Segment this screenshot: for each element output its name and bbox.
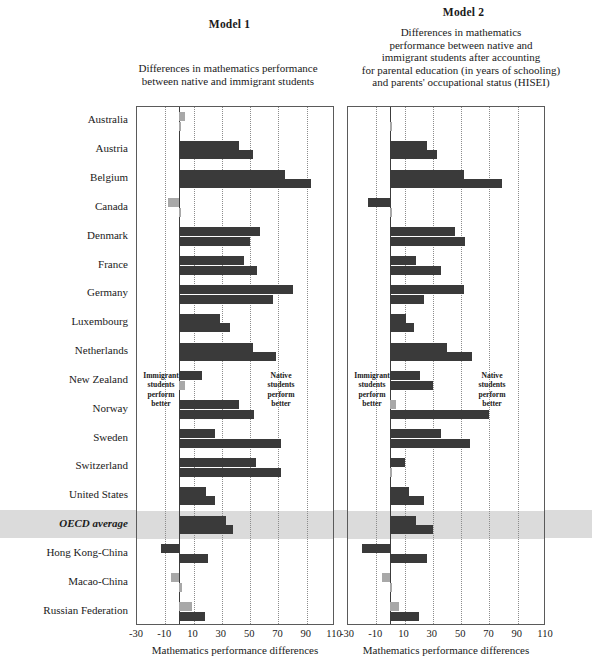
x-tick-model-2-50: 50 <box>445 628 475 639</box>
annotation-immigrant-line-3: better <box>350 399 394 409</box>
bar-netherlands-series-0 <box>390 343 447 352</box>
annotation-native-line-3: better <box>470 399 514 409</box>
x-tick-model-2-110: 110 <box>530 628 560 639</box>
bar-macao-china-series-1 <box>179 583 182 592</box>
bar-netherlands-series-1 <box>179 352 275 361</box>
bar-belgium-series-1 <box>390 179 502 188</box>
bar-macao-china-series-0 <box>171 573 179 582</box>
annotation-native-line-0: Native <box>259 371 303 381</box>
bar-norway-series-0 <box>179 400 238 409</box>
category-label-denmark: Denmark <box>0 230 128 241</box>
x-tick-model-1-90: 90 <box>291 628 321 639</box>
bar-netherlands-series-1 <box>390 352 472 361</box>
bar-sweden-series-0 <box>179 429 214 438</box>
bar-canada-series-0 <box>368 198 391 207</box>
bar-united-states-series-0 <box>179 487 206 496</box>
bar-germany-series-1 <box>179 295 272 304</box>
bar-russian-federation-series-0 <box>179 602 192 611</box>
bar-new-zealand-series-1 <box>390 381 432 390</box>
category-label-austria: Austria <box>0 143 128 154</box>
annotation-immigrant-line-2: perform <box>350 390 394 400</box>
category-label-norway: Norway <box>0 403 128 414</box>
bar-france-series-0 <box>390 256 415 265</box>
bar-oecd-average-series-0 <box>179 516 226 525</box>
bar-luxembourg-series-0 <box>179 314 220 323</box>
bar-united-states-series-1 <box>179 496 214 505</box>
bar-oecd-average-series-1 <box>390 525 432 534</box>
x-tick-model-1-10: 10 <box>178 628 208 639</box>
bar-germany-series-0 <box>179 285 292 294</box>
bar-norway-series-1 <box>390 410 489 419</box>
x-tick-model-1--10: -10 <box>149 628 179 639</box>
x-tick-model-1-70: 70 <box>262 628 292 639</box>
bar-austria-series-0 <box>390 141 427 150</box>
category-label-switzerland: Switzerland <box>0 460 128 471</box>
x-tick-model-2-90: 90 <box>502 628 532 639</box>
bar-belgium-series-1 <box>179 179 311 188</box>
bar-germany-series-1 <box>390 295 424 304</box>
bar-france-series-1 <box>390 266 441 275</box>
bar-denmark-series-0 <box>390 227 455 236</box>
bar-macao-china-series-0 <box>382 573 390 582</box>
chart-plot-model-1: ImmigrantstudentsperformbetterNativestud… <box>136 106 334 625</box>
annotation-immigrant-line-0: Immigrant <box>139 371 183 381</box>
bar-germany-series-0 <box>390 285 464 294</box>
bar-hong-kong-china-series-1 <box>179 554 207 563</box>
bar-netherlands-series-0 <box>179 343 253 352</box>
bar-denmark-series-1 <box>390 237 465 246</box>
pisa-immigrant-performance-figure: Model 1 Differences in mathematics perfo… <box>0 0 592 669</box>
panel-subtitle-model-2-line-3: for parental education (in years of scho… <box>332 64 590 77</box>
bar-oecd-average-series-0 <box>390 516 415 525</box>
category-label-united-states: United States <box>0 489 128 500</box>
category-label-france: France <box>0 259 128 270</box>
x-axis-title-model-2: Mathematics performance differences <box>347 644 545 656</box>
category-label-australia: Australia <box>0 114 128 125</box>
x-tick-model-2--30: -30 <box>332 628 362 639</box>
panel-subtitle-model-1-line-0: Differences in mathematics performance <box>112 62 344 75</box>
bar-canada-series-0 <box>168 198 179 207</box>
bar-macao-china-series-1 <box>390 583 391 592</box>
bar-switzerland-series-1 <box>390 468 391 477</box>
annotation-native-line-2: perform <box>259 390 303 400</box>
panel-subtitle-model-2: Differences in mathematicsperformance be… <box>332 26 590 89</box>
panel-subtitle-model-2-line-4: and parents' occupational status (HISEI) <box>332 76 590 89</box>
x-tick-model-2-30: 30 <box>417 628 447 639</box>
bar-new-zealand-series-0 <box>390 371 420 380</box>
annotation-immigrant-perform-better: Immigrantstudentsperformbetter <box>139 371 183 409</box>
annotation-immigrant-line-2: perform <box>139 390 183 400</box>
gridline-90 <box>518 107 520 624</box>
bar-denmark-series-1 <box>179 237 250 246</box>
category-label-canada: Canada <box>0 201 128 212</box>
category-label-netherlands: Netherlands <box>0 345 128 356</box>
bar-russian-federation-series-1 <box>179 612 204 621</box>
bar-sweden-series-1 <box>179 439 281 448</box>
category-label-luxembourg: Luxembourg <box>0 316 128 327</box>
chart-plot-model-2: ImmigrantstudentsperformbetterNativestud… <box>347 106 545 625</box>
bar-switzerland-series-0 <box>179 458 255 467</box>
x-tick-model-1--30: -30 <box>121 628 151 639</box>
bar-switzerland-series-1 <box>179 468 281 477</box>
bar-hong-kong-china-series-0 <box>362 544 390 553</box>
annotation-native-perform-better: Nativestudentsperformbetter <box>259 371 303 409</box>
x-tick-model-1-30: 30 <box>206 628 236 639</box>
category-label-oecd-average: OECD average <box>0 518 128 529</box>
category-label-belgium: Belgium <box>0 172 128 183</box>
x-tick-model-1-50: 50 <box>234 628 264 639</box>
annotation-native-line-2: perform <box>470 390 514 400</box>
bar-united-states-series-1 <box>390 496 424 505</box>
bar-united-states-series-0 <box>390 487 408 496</box>
bar-belgium-series-0 <box>390 170 464 179</box>
annotation-immigrant-line-1: students <box>139 380 183 390</box>
x-tick-model-2-10: 10 <box>389 628 419 639</box>
annotation-native-line-3: better <box>259 399 303 409</box>
bar-sweden-series-1 <box>390 439 469 448</box>
annotation-immigrant-line-1: students <box>350 380 394 390</box>
panel-subtitle-model-2-line-2: immigrant students after accounting <box>332 51 590 64</box>
category-label-new-zealand: New Zealand <box>0 374 128 385</box>
category-label-germany: Germany <box>0 287 128 298</box>
bar-austria-series-0 <box>179 141 238 150</box>
bar-australia-series-1 <box>390 122 391 131</box>
annotation-native-perform-better: Nativestudentsperformbetter <box>470 371 514 409</box>
panel-subtitle-model-1-line-1: between native and immigrant students <box>112 75 344 88</box>
bar-russian-federation-series-0 <box>390 602 398 611</box>
